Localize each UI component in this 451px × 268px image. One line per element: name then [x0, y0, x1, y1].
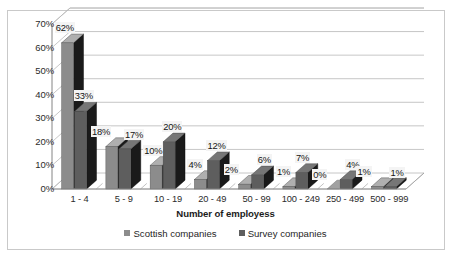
data-label-survey-3: 12%: [206, 140, 226, 151]
x-axis-title: Number of employess: [0, 208, 451, 219]
legend-label-survey: Survey companies: [248, 228, 327, 239]
data-label-scottish-1: 18%: [91, 126, 111, 137]
data-label-scottish-4: 2%: [224, 164, 239, 175]
data-label-scottish-6: 0%: [312, 169, 327, 180]
data-label-scottish-5: 1%: [276, 166, 291, 177]
data-label-survey-7: 1%: [389, 167, 404, 178]
chart-figure: 0%10%20%30%40%50%60%70% 1 - 45 - 910 - 1…: [0, 0, 451, 268]
data-label-survey-4: 6%: [257, 154, 272, 165]
data-label-survey-2: 20%: [162, 121, 182, 132]
data-label-scottish-2: 10%: [143, 145, 163, 156]
legend-swatch-scottish-icon: [124, 230, 130, 236]
data-label-survey-5: 7%: [295, 152, 310, 163]
data-label-scottish-0: 62%: [55, 22, 75, 33]
data-label-scottish-3: 4%: [187, 159, 202, 170]
data-label-survey-1: 17%: [124, 129, 144, 140]
data-label-survey-0: 33%: [74, 90, 94, 101]
legend-label-scottish: Scottish companies: [133, 228, 216, 239]
chart-legend: Scottish companies Survey companies: [0, 228, 451, 239]
legend-swatch-survey-icon: [239, 230, 245, 236]
legend-item-scottish: Scottish companies: [124, 228, 216, 239]
data-label-scottish-7: 1%: [356, 166, 371, 177]
legend-item-survey: Survey companies: [239, 228, 327, 239]
